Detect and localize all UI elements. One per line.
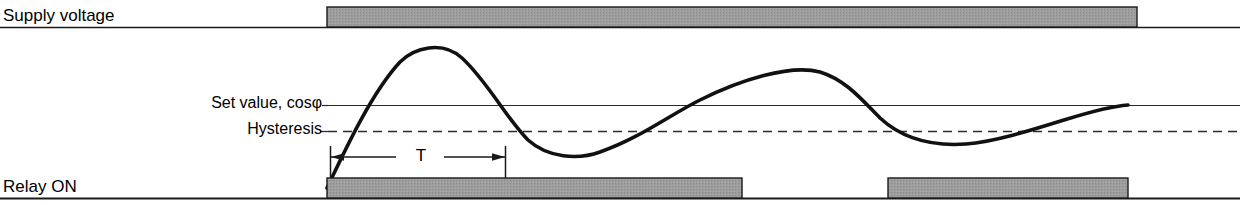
period-arrowhead-right <box>492 153 505 161</box>
relay-timing-diagram: Supply voltage Set value, cosφ Hysteresi… <box>0 0 1240 205</box>
period-label: T <box>398 146 444 166</box>
set-value-label: Set value, cosφ <box>0 95 322 111</box>
supply-voltage-bar <box>327 7 1137 27</box>
supply-voltage-label: Supply voltage <box>3 7 115 24</box>
hysteresis-label: Hysteresis <box>0 121 322 137</box>
period-arrowhead-left <box>331 153 344 161</box>
relay-on-bar <box>327 178 742 198</box>
power-factor-curve <box>327 48 1128 188</box>
relay-on-label: Relay ON <box>3 178 77 195</box>
relay-on-bar <box>888 178 1128 198</box>
